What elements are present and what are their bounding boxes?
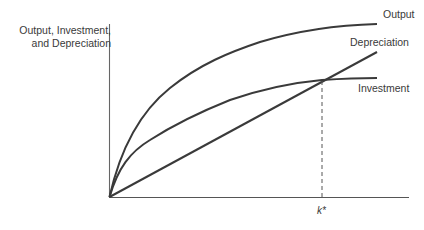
depreciation-line	[110, 52, 378, 197]
y-axis-label: Output, Investment, and Depreciation	[19, 24, 111, 50]
investment-label: Investment	[358, 82, 409, 95]
output-label: Output	[383, 8, 415, 21]
depreciation-label: Depreciation	[350, 36, 409, 49]
y-axis-label-line2: and Depreciation	[19, 37, 111, 50]
y-axis-label-line1: Output, Investment,	[19, 24, 111, 37]
output-curve	[110, 24, 378, 197]
kstar-label: k*	[317, 204, 326, 217]
investment-curve	[110, 78, 378, 197]
